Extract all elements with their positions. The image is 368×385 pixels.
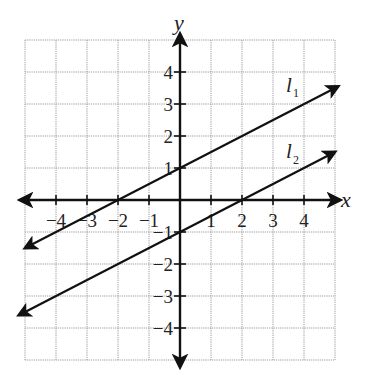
line-label-l1-main: l <box>286 73 292 97</box>
y-tick-label: −2 <box>153 254 173 275</box>
line-label-l1: l 1 <box>286 73 299 100</box>
x-tick-label: 3 <box>268 210 278 231</box>
x-tick-label: 2 <box>237 210 247 231</box>
line-l1 <box>25 86 338 248</box>
line-label-l1-subscript: 1 <box>293 86 299 100</box>
y-tick-label: 4 <box>164 62 174 83</box>
line-l2 <box>19 152 335 315</box>
x-tick-label: 4 <box>299 210 309 231</box>
y-tick-label: 2 <box>164 126 174 147</box>
x-axis-label: x <box>340 187 351 212</box>
line-label-l2-main: l <box>286 139 292 163</box>
x-tick-label: −2 <box>108 210 128 231</box>
y-tick-label: −4 <box>153 318 174 339</box>
line-label-l2-subscript: 2 <box>293 153 299 167</box>
axes <box>20 34 340 367</box>
line-label-l2: l 2 <box>286 139 299 167</box>
y-tick-label: 3 <box>164 94 174 115</box>
y-tick-label: −3 <box>153 286 173 307</box>
y-axis-label: y <box>172 10 184 35</box>
coordinate-plane: −4−3−2−11234−4−3−2−11234 y x l 1 l 2 <box>0 0 368 385</box>
